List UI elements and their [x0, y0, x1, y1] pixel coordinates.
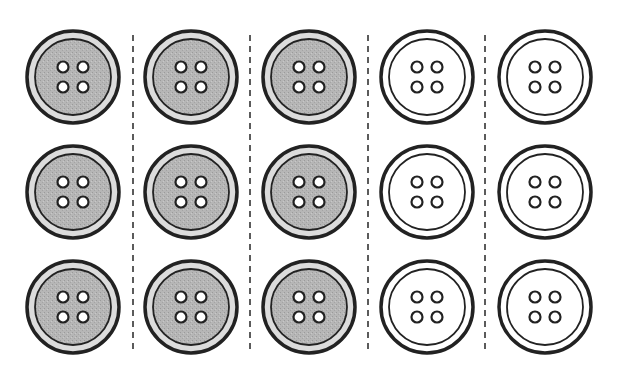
button-hole-icon: [58, 292, 69, 303]
button-hole-icon: [314, 197, 325, 208]
button-hole-icon: [58, 177, 69, 188]
button-hole-icon: [196, 82, 207, 93]
button-hole-icon: [58, 197, 69, 208]
button-hole-icon: [196, 177, 207, 188]
button-hole-icon: [550, 82, 561, 93]
button-hole-icon: [78, 62, 89, 73]
button-hole-icon: [294, 312, 305, 323]
buttons-diagram: [0, 0, 624, 372]
button-hole-icon: [550, 177, 561, 188]
button-hole-icon: [176, 62, 187, 73]
shaded-button-icon: [145, 146, 237, 238]
button-hole-icon: [550, 197, 561, 208]
plain-button-icon: [499, 261, 591, 353]
shaded-button-icon: [145, 31, 237, 123]
button-hole-icon: [432, 312, 443, 323]
button-grid-figure: [0, 0, 624, 372]
button-hole-icon: [530, 312, 541, 323]
button-hole-icon: [432, 82, 443, 93]
shaded-button-icon: [263, 146, 355, 238]
button-hole-icon: [196, 197, 207, 208]
button-hole-icon: [176, 292, 187, 303]
button-hole-icon: [294, 82, 305, 93]
button-hole-icon: [432, 292, 443, 303]
button-hole-icon: [412, 197, 423, 208]
button-hole-icon: [432, 197, 443, 208]
plain-button-icon: [381, 146, 473, 238]
button-hole-icon: [58, 312, 69, 323]
button-hole-icon: [550, 62, 561, 73]
button-hole-icon: [314, 312, 325, 323]
button-hole-icon: [58, 62, 69, 73]
button-hole-icon: [78, 312, 89, 323]
button-hole-icon: [314, 62, 325, 73]
button-hole-icon: [412, 312, 423, 323]
button-hole-icon: [294, 177, 305, 188]
button-hole-icon: [176, 177, 187, 188]
button-hole-icon: [530, 62, 541, 73]
shaded-button-icon: [263, 31, 355, 123]
button-hole-icon: [314, 292, 325, 303]
button-hole-icon: [530, 82, 541, 93]
shaded-button-icon: [145, 261, 237, 353]
button-hole-icon: [550, 292, 561, 303]
button-hole-icon: [550, 312, 561, 323]
button-hole-icon: [314, 177, 325, 188]
shaded-button-icon: [27, 261, 119, 353]
shaded-button-icon: [27, 31, 119, 123]
button-hole-icon: [294, 292, 305, 303]
button-hole-icon: [78, 82, 89, 93]
button-hole-icon: [176, 197, 187, 208]
button-hole-icon: [432, 62, 443, 73]
button-hole-icon: [530, 177, 541, 188]
button-hole-icon: [196, 312, 207, 323]
shaded-button-icon: [263, 261, 355, 353]
button-hole-icon: [78, 197, 89, 208]
shaded-button-icon: [27, 146, 119, 238]
button-hole-icon: [314, 82, 325, 93]
button-hole-icon: [176, 312, 187, 323]
button-hole-icon: [432, 177, 443, 188]
plain-button-icon: [381, 261, 473, 353]
button-hole-icon: [78, 177, 89, 188]
button-hole-icon: [196, 292, 207, 303]
buttons-group: [27, 31, 591, 353]
plain-button-icon: [381, 31, 473, 123]
button-hole-icon: [58, 82, 69, 93]
button-hole-icon: [294, 197, 305, 208]
button-hole-icon: [412, 292, 423, 303]
button-hole-icon: [412, 177, 423, 188]
button-hole-icon: [196, 62, 207, 73]
button-hole-icon: [530, 197, 541, 208]
plain-button-icon: [499, 146, 591, 238]
button-hole-icon: [412, 82, 423, 93]
button-hole-icon: [412, 62, 423, 73]
plain-button-icon: [499, 31, 591, 123]
button-hole-icon: [294, 62, 305, 73]
button-hole-icon: [176, 82, 187, 93]
button-hole-icon: [78, 292, 89, 303]
button-hole-icon: [530, 292, 541, 303]
